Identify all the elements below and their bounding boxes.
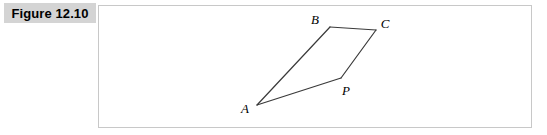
figure-caption-label: Figure 12.10: [11, 7, 88, 20]
segment-BC: [330, 27, 376, 30]
figure-caption-tab: Figure 12.10: [4, 3, 96, 23]
figure-panel: ABCP: [98, 5, 532, 128]
geometry-diagram: ABCP: [99, 6, 533, 129]
vertex-label-b: B: [311, 12, 319, 27]
vertex-label-group: ABCP: [240, 12, 390, 116]
vertex-label-a: A: [240, 101, 249, 116]
edge-group: [257, 27, 376, 105]
vertex-label-p: P: [341, 83, 350, 98]
vertex-label-c: C: [381, 16, 390, 31]
figure-root: Figure 12.10 ABCP: [0, 0, 547, 135]
segment-CP: [341, 30, 376, 78]
